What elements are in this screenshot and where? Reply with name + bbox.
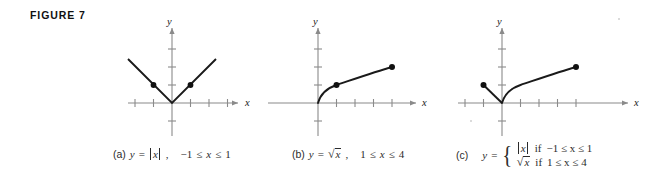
- panel-c: x y (c) y = { x if −1 ≤ x ≤ 1 √x if: [430, 0, 650, 189]
- x-axis-label-c: x: [633, 97, 639, 108]
- abs-bar-left-a: [150, 148, 151, 160]
- caption-a-dom-right: 1: [225, 148, 231, 160]
- curve-abs-branch-c: [484, 85, 503, 103]
- caption-b-le1: ≤: [370, 148, 376, 160]
- panel-a: x y (a) y = x , −1 ≤ x ≤ 1: [0, 0, 250, 189]
- y-axis-label-b: y: [312, 16, 318, 27]
- caption-c-radical-group: √x: [517, 156, 530, 169]
- caption-a-abs: x: [149, 148, 162, 160]
- piecewise-group-c: { x if −1 ≤ x ≤ 1 √x if 1 ≤ x ≤ 4: [501, 142, 592, 168]
- radicand-b: x: [335, 148, 342, 161]
- abs-bar-left-c: [518, 142, 519, 154]
- caption-b: (b) y = √x , 1 ≤ x ≤ 4: [292, 148, 404, 161]
- y-axis-arrow-c: [499, 28, 504, 34]
- panel-b: x y (b) y = √x , 1 ≤ x ≤ 4: [250, 0, 430, 189]
- point-b-right: [389, 64, 395, 70]
- caption-b-tag: (b): [292, 148, 305, 160]
- radicand-c: x: [523, 156, 530, 169]
- scan-speck: [618, 18, 620, 20]
- point-b-left: [334, 82, 340, 88]
- caption-b-equals: =: [318, 148, 324, 160]
- caption-b-dom-right: 4: [399, 148, 405, 160]
- caption-a-comma: ,: [166, 148, 169, 160]
- caption-a-expr: x: [153, 148, 158, 160]
- x-axis-arrow-c: [622, 100, 628, 105]
- piecewise-row-2: √x if 1 ≤ x ≤ 4: [517, 156, 592, 169]
- y-axis-label-a: y: [166, 16, 172, 27]
- x-axis-arrow-b: [410, 100, 416, 105]
- left-brace-icon: {: [503, 146, 513, 165]
- abs-bar-right-a: [159, 148, 160, 160]
- curve-sqrt-b: [318, 67, 392, 103]
- caption-c-row2-cond: 1 ≤ x ≤ 4: [547, 156, 587, 169]
- plot-a-absolute-value: x y: [0, 0, 250, 145]
- caption-b-var: x: [380, 148, 385, 160]
- caption-a: (a) y = x , −1 ≤ x ≤ 1: [113, 148, 231, 160]
- caption-c-y: y: [482, 149, 487, 161]
- caption-c-abs: x: [517, 142, 530, 155]
- piecewise-row-1: x if −1 ≤ x ≤ 1: [517, 142, 592, 155]
- piecewise-rows: x if −1 ≤ x ≤ 1 √x if 1 ≤ x ≤ 4: [517, 142, 592, 168]
- caption-c-row1-expr: x: [521, 142, 526, 155]
- caption-b-le2: ≤: [389, 148, 395, 160]
- point-a-right: [188, 82, 194, 88]
- point-a-left: [151, 82, 157, 88]
- point-c-right: [573, 64, 579, 70]
- plot-c-piecewise: x y: [430, 0, 650, 145]
- caption-c: (c) y = { x if −1 ≤ x ≤ 1 √x if 1 ≤ x ≤ …: [456, 142, 592, 168]
- caption-a-var: x: [206, 148, 211, 160]
- caption-a-le2: ≤: [215, 148, 221, 160]
- y-axis-arrow-a: [169, 28, 174, 34]
- figure-root: FIGURE 7: [0, 0, 650, 189]
- radical-sign-b: √: [328, 148, 335, 160]
- scan-speck: [470, 120, 472, 122]
- caption-a-le1: ≤: [196, 148, 202, 160]
- point-c-left: [481, 82, 487, 88]
- caption-c-row1-if: if: [535, 142, 542, 155]
- caption-c-row2-if: if: [535, 156, 542, 169]
- caption-c-equals: =: [491, 149, 497, 161]
- caption-b-comma: ,: [345, 148, 348, 160]
- y-axis-arrow-b: [315, 28, 320, 34]
- caption-a-equals: =: [139, 148, 145, 160]
- caption-b-radical-group: √x: [328, 148, 341, 161]
- caption-c-tag: (c): [456, 149, 468, 161]
- x-axis-arrow-a: [232, 100, 238, 105]
- abs-bar-right-c: [527, 142, 528, 154]
- caption-a-dom-left: −1: [181, 148, 193, 160]
- caption-c-row1-cond: −1 ≤ x ≤ 1: [546, 142, 592, 155]
- curve-sqrt-branch-c: [502, 67, 576, 103]
- caption-a-tag: (a): [113, 148, 126, 160]
- caption-b-y: y: [309, 148, 314, 160]
- x-axis-label-b: x: [421, 97, 427, 108]
- radical-sign-c: √: [517, 156, 524, 168]
- caption-a-y: y: [130, 148, 135, 160]
- y-axis-label-c: y: [496, 16, 502, 27]
- caption-b-dom-left: 1: [360, 148, 366, 160]
- plot-b-square-root: x y: [250, 0, 430, 145]
